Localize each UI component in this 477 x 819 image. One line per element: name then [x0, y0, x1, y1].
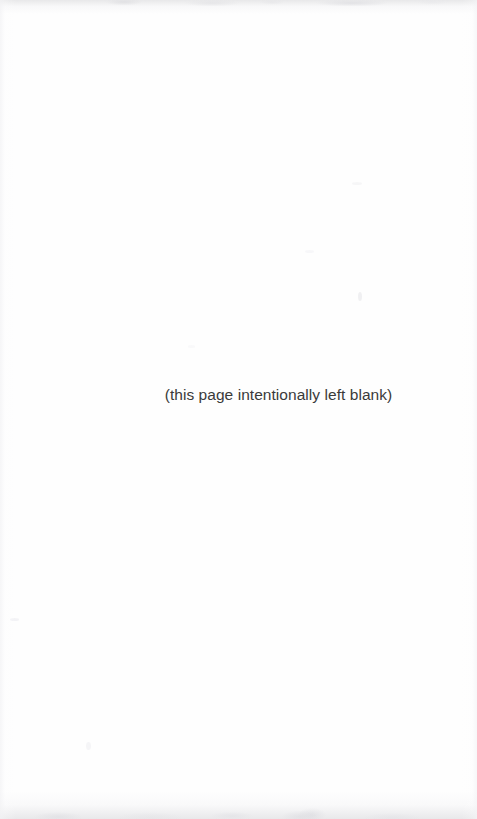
scan-speck-icon — [10, 618, 19, 621]
scan-speck-icon — [352, 182, 362, 185]
scan-edge-haze-top-icon — [0, 0, 477, 14]
scan-speck-icon — [188, 345, 195, 348]
scan-speck-icon — [305, 250, 314, 253]
scan-vignette-overlay — [0, 0, 477, 819]
intentionally-blank-notice: (this page intentionally left blank) — [0, 385, 477, 405]
scan-edge-haze-bottom-icon — [0, 791, 477, 819]
scan-speck-icon — [358, 292, 362, 301]
scan-speck-icon — [86, 742, 91, 750]
scanned-page: (this page intentionally left blank) — [0, 0, 477, 819]
